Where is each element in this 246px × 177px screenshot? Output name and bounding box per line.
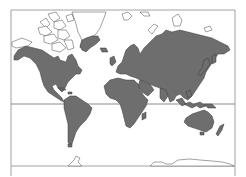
south-america <box>64 96 92 146</box>
antarctica-outline <box>68 156 234 166</box>
landmasses <box>14 30 230 147</box>
australia <box>184 110 214 132</box>
world-map <box>0 0 246 177</box>
